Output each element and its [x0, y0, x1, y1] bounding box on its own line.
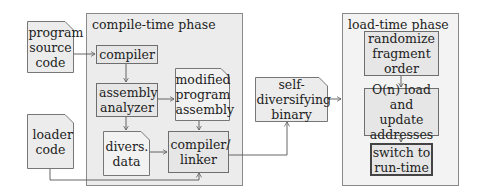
- switch-to-runtime-label: switch to run-time: [373, 145, 431, 175]
- self-diversifying-binary-label: self-diversifying binary: [257, 77, 327, 122]
- self-diversifying-binary-doc: self-diversifying binary: [255, 77, 328, 122]
- compiler-box: compiler: [96, 45, 158, 64]
- compiler-label: compiler: [99, 47, 155, 62]
- assembly-analyzer-box: assembly analyzer: [96, 83, 158, 117]
- program-source-code-doc: program source code: [27, 21, 74, 73]
- loader-code-label: loader code: [33, 127, 69, 157]
- compiler-linker-box: compiler/ linker: [168, 131, 229, 173]
- modified-program-assembly-doc: modified program assembly: [175, 68, 230, 121]
- load-update-addresses-label: O(n) load and update addresses: [368, 82, 436, 142]
- loader-code-doc: loader code: [27, 114, 74, 169]
- program-source-code-label: program source code: [29, 25, 73, 70]
- randomize-fragment-order-box: randomize fragment order: [364, 31, 439, 76]
- divers-data-label: divers. data: [106, 139, 148, 169]
- randomize-fragment-order-label: randomize fragment order: [367, 31, 437, 76]
- load-update-addresses-box: O(n) load and update addresses: [364, 88, 439, 136]
- modified-program-assembly-label: modified program assembly: [176, 72, 230, 117]
- compiler-linker-label: compiler/ linker: [171, 137, 227, 167]
- divers-data-doc: divers. data: [103, 131, 150, 176]
- assembly-analyzer-label: assembly analyzer: [99, 85, 155, 115]
- switch-to-runtime-box: switch to run-time: [370, 143, 433, 176]
